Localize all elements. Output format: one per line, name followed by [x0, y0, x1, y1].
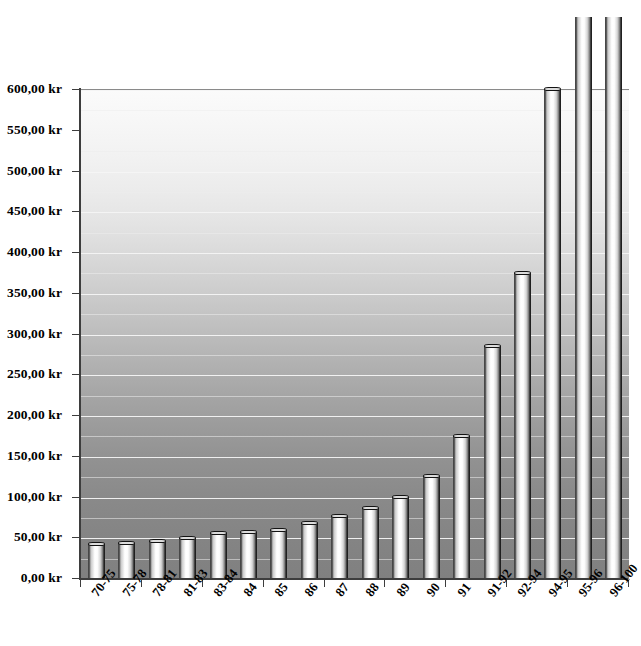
x-axis-tick: [324, 580, 325, 587]
y-axis-tick: [72, 211, 79, 212]
x-axis-label: 85: [271, 580, 292, 600]
bar-cap: [453, 434, 470, 438]
y-axis-tick: [72, 537, 79, 538]
x-axis-tick: [567, 580, 568, 587]
bar-body: [575, 17, 592, 579]
bar-body: [210, 533, 227, 579]
bar: [484, 346, 501, 579]
y-axis-label: 550,00 kr: [7, 122, 62, 138]
y-axis-line: [79, 88, 81, 580]
x-axis-tick: [202, 580, 203, 587]
bar: [88, 544, 105, 579]
bar-body: [179, 538, 196, 579]
bar-body: [362, 508, 379, 579]
bar: [210, 533, 227, 579]
bar-cap: [392, 495, 409, 499]
bar: [575, 17, 592, 579]
bar: [362, 508, 379, 579]
bar-cap: [149, 539, 166, 543]
y-axis-tick: [72, 252, 79, 253]
x-axis-label: 89: [393, 580, 414, 600]
x-axis-tick: [445, 580, 446, 587]
bar-body: [453, 436, 470, 579]
bar-body: [301, 523, 318, 579]
x-axis-label: 87: [332, 580, 353, 600]
bar: [331, 516, 348, 579]
y-axis-label: 400,00 kr: [7, 244, 62, 260]
bar: [392, 497, 409, 579]
bar-cap: [544, 87, 561, 91]
bar-cap: [362, 506, 379, 510]
bar-body: [484, 346, 501, 579]
bars-group: [81, 90, 629, 579]
x-axis-label: 88: [362, 580, 383, 600]
bar-body: [270, 530, 287, 579]
x-axis-tick: [263, 580, 264, 587]
bar-cap: [484, 344, 501, 348]
bar-body: [88, 544, 105, 579]
y-axis-tick: [72, 293, 79, 294]
x-axis-label: 90: [423, 580, 444, 600]
x-axis-label: 86: [301, 580, 322, 600]
bar: [270, 530, 287, 579]
bar-body: [514, 273, 531, 579]
y-axis-tick: [72, 130, 79, 131]
bar-cap: [514, 271, 531, 275]
y-axis-label: 150,00 kr: [7, 448, 62, 464]
x-axis-tick: [141, 580, 142, 587]
plot-area: [80, 89, 629, 579]
y-axis-tick: [72, 415, 79, 416]
x-axis-tick: [506, 580, 507, 587]
x-axis-line: [79, 578, 628, 580]
bar-body: [149, 541, 166, 579]
bar-cap: [210, 531, 227, 535]
y-axis-label: 300,00 kr: [7, 326, 62, 342]
bar: [301, 523, 318, 579]
bar-cap: [331, 514, 348, 518]
bar: [544, 89, 561, 579]
bar-body: [605, 17, 622, 579]
x-axis-tick: [384, 580, 385, 587]
bar-body: [240, 532, 257, 579]
bar: [423, 476, 440, 580]
y-axis-tick: [72, 578, 79, 579]
y-axis-label: 200,00 kr: [7, 407, 62, 423]
y-axis-tick: [72, 374, 79, 375]
y-axis-label: 100,00 kr: [7, 489, 62, 505]
y-axis-tick: [72, 334, 79, 335]
x-axis-tick: [628, 580, 629, 587]
bar: [514, 273, 531, 579]
y-axis-label: 350,00 kr: [7, 285, 62, 301]
y-axis-tick: [72, 456, 79, 457]
bar: [179, 538, 196, 579]
y-axis-label: 500,00 kr: [7, 163, 62, 179]
bar-cap: [118, 541, 135, 545]
y-axis-tick: [72, 89, 79, 90]
bar: [240, 532, 257, 579]
y-axis-label: 50,00 kr: [14, 529, 62, 545]
bar-cap: [240, 530, 257, 534]
y-axis-label: 250,00 kr: [7, 366, 62, 382]
x-axis-tick: [80, 580, 81, 587]
bar-body: [423, 476, 440, 580]
bar-body: [544, 89, 561, 579]
bar-cap: [179, 536, 196, 540]
bar-body: [392, 497, 409, 579]
y-axis-tick: [72, 497, 79, 498]
x-axis-label: 84: [240, 580, 261, 600]
y-axis-label: 600,00 kr: [7, 81, 62, 97]
bar-body: [331, 516, 348, 579]
bar: [605, 17, 622, 579]
bar-cap: [270, 528, 287, 532]
bar-cap: [423, 474, 440, 478]
bar: [149, 541, 166, 579]
bar: [453, 436, 470, 579]
bar-body: [118, 543, 135, 579]
bar-cap: [88, 542, 105, 546]
y-axis-tick: [72, 171, 79, 172]
x-axis-label: 91: [454, 580, 475, 600]
y-axis-label: 0,00 kr: [21, 570, 62, 586]
bar-cap: [301, 521, 318, 525]
y-axis-label: 450,00 kr: [7, 203, 62, 219]
